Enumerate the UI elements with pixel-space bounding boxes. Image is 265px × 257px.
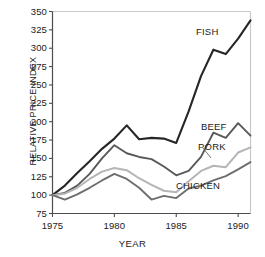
x-tick-label: 1985 <box>156 220 196 231</box>
series-label-chicken: CHICKEN <box>176 180 220 191</box>
x-tick-label: 1975 <box>33 220 73 231</box>
data-series-lines <box>53 20 251 199</box>
y-tick-label: 75 <box>14 208 47 219</box>
series-label-fish: FISH <box>196 26 218 37</box>
x-tick-label: 1980 <box>94 220 134 231</box>
series-label-pork: PORK <box>198 141 226 152</box>
relative-price-index-chart: 75100125150175200225250275300325350 1975… <box>0 0 265 257</box>
y-tick-label: 350 <box>14 6 47 17</box>
series-label-beef: BEEF <box>201 121 227 132</box>
y-axis-title: RELATIVE PRICE INDEX <box>28 31 38 191</box>
x-tick-label: 1990 <box>218 220 258 231</box>
x-axis-title: YEAR <box>0 238 265 249</box>
